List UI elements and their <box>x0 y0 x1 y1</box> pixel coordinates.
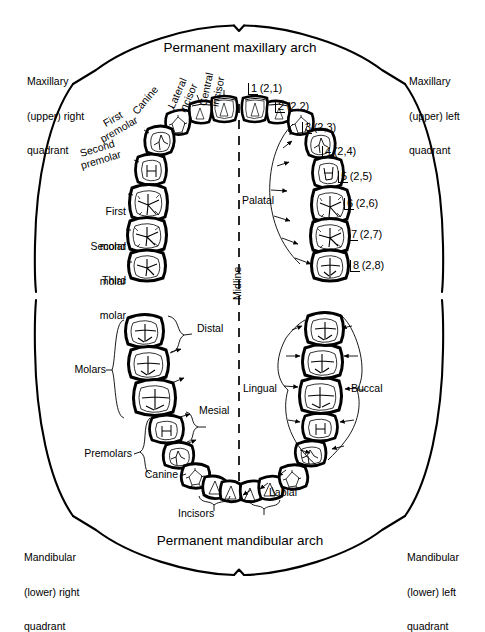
quadrant-line: Maxillary <box>27 76 84 88</box>
quadrant-maxillary-upper-left: Maxillary (upper) left quadrant <box>409 53 460 180</box>
quadrant-line: Mandibular <box>24 552 79 564</box>
tooth-mandibular-right-second-premolar <box>150 415 184 443</box>
tooth-number-fdi: (2,4) <box>332 145 356 157</box>
tooth-mandibular-right-central-incisor <box>220 481 241 502</box>
label-distal: Distal <box>197 323 223 335</box>
page-title-mandibular: Permanent mandibular arch <box>130 533 350 548</box>
label-premolars: Premolars <box>60 448 132 460</box>
tooth-maxillary-left-second-molar <box>311 219 350 254</box>
tooth-mandibular-left-second-molar <box>303 345 343 379</box>
tooth-maxillary-right-first-molar <box>130 185 168 221</box>
tooth-mandibular-right-third-molar <box>126 315 164 348</box>
page-title-maxillary: Permanent maxillary arch <box>130 40 350 55</box>
quadrant-line: (lower) right <box>24 587 79 599</box>
tooth-number-digit: 2 <box>275 101 285 113</box>
tooth-name-line: molar <box>68 310 126 322</box>
tooth-mandibular-right-first-molar <box>134 380 176 416</box>
tooth-number-24: 4(2,4) <box>322 145 356 158</box>
tooth-number-22: 2(2,2) <box>275 100 309 113</box>
tooth-maxillary-right-second-molar <box>128 218 167 253</box>
tooth-number-digit: 8 <box>350 260 360 272</box>
quadrant-line: (upper) right <box>27 111 84 123</box>
tooth-number-21: 1(2,1) <box>248 82 282 95</box>
label-buccal: Buccal <box>351 383 383 395</box>
tooth-number-fdi: (2,1) <box>258 82 282 94</box>
tooth-number-digit: 7 <box>348 229 358 241</box>
label-incisors: Incisors <box>178 508 214 520</box>
tooth-number-fdi: (2,8) <box>360 259 384 271</box>
quadrant-mandibular-lower-right: Mandibular (lower) right quadrant <box>24 529 79 632</box>
label-lingual: Lingual <box>243 383 277 395</box>
label-labial: Labial <box>269 487 297 499</box>
tooth-number-26: 6(2,6) <box>344 197 378 210</box>
tooth-mandibular-left-first-molar <box>300 378 342 414</box>
tooth-number-fdi: (2,2) <box>285 100 309 112</box>
label-palatal: Palatal <box>242 195 274 207</box>
label-molars: Molars <box>56 364 106 376</box>
quadrant-line: (lower) left <box>407 587 459 599</box>
quadrant-line: (upper) left <box>409 111 460 123</box>
tooth-name-line: Third <box>68 275 126 287</box>
tooth-maxillary-right-third-molar <box>129 250 166 281</box>
tooth-number-fdi: (2,6) <box>354 197 378 209</box>
tooth-number-digit: 3 <box>302 122 312 134</box>
tooth-number-27: 7(2,7) <box>348 228 382 241</box>
tooth-number-digit: 6 <box>344 198 354 210</box>
quadrant-line: quadrant <box>407 621 459 632</box>
tooth-number-23: 3(2,3) <box>302 121 336 134</box>
tooth-mandibular-right-second-molar <box>129 347 169 381</box>
quadrant-line: quadrant <box>24 621 79 632</box>
quadrant-line: Mandibular <box>407 552 459 564</box>
tooth-maxillary-left-third-molar <box>312 250 349 281</box>
quadrant-line: quadrant <box>409 145 460 157</box>
tooth-name-line: Second <box>63 241 126 253</box>
tooth-mandibular-left-third-molar <box>306 313 344 346</box>
quadrant-line: Maxillary <box>409 76 460 88</box>
label-midline: Midline <box>232 267 244 300</box>
tooth-number-fdi: (2,3) <box>312 121 336 133</box>
tooth-mandibular-left-first-premolar <box>295 441 326 466</box>
tooth-number-fdi: (2,7) <box>358 228 382 240</box>
tooth-mandibular-left-second-premolar <box>303 413 338 441</box>
tooth-number-25: 5(2,5) <box>338 170 372 183</box>
dental-arch-diagram: Permanent maxillary arch Permanent mandi… <box>0 0 485 632</box>
tooth-maxillary-right-second-premolar <box>136 154 167 185</box>
tooth-number-digit: 1 <box>248 83 258 95</box>
tooth-number-fdi: (2,5) <box>348 170 372 182</box>
label-mesial: Mesial <box>199 405 229 417</box>
tooth-number-28: 8(2,8) <box>350 259 384 272</box>
tooth-number-digit: 4 <box>322 146 332 158</box>
quadrant-mandibular-lower-left: Mandibular (lower) left quadrant <box>407 529 459 632</box>
label-maxillary-right-third-molar: Third molar <box>68 252 126 344</box>
label-canine-lower: Canine <box>104 469 178 481</box>
tooth-number-digit: 5 <box>338 171 348 183</box>
tooth-maxillary-right-first-premolar <box>145 126 175 155</box>
tooth-maxillary-left-central-incisor <box>242 96 268 122</box>
tooth-name-line: First <box>71 206 126 218</box>
